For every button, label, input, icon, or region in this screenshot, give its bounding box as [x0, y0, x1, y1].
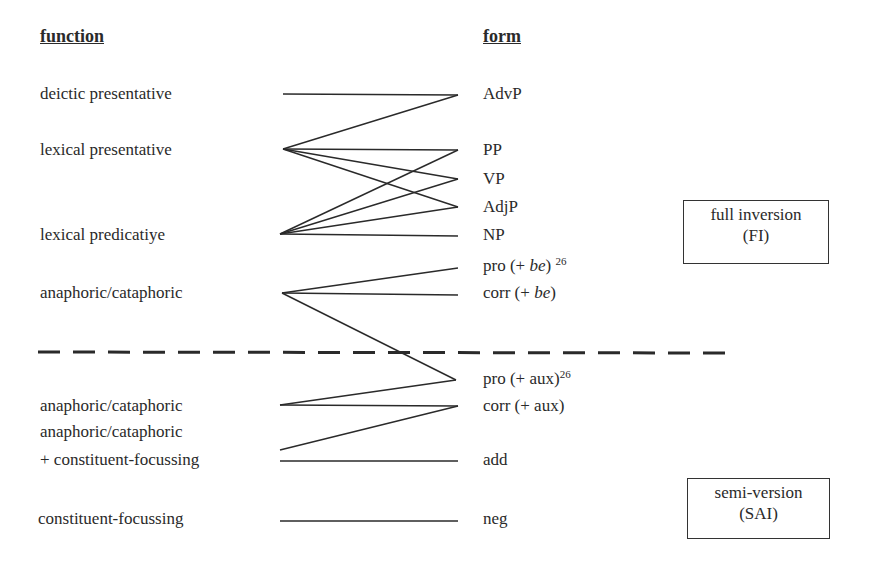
fi-sai-divider — [38, 352, 733, 353]
connection-lines — [0, 0, 870, 570]
